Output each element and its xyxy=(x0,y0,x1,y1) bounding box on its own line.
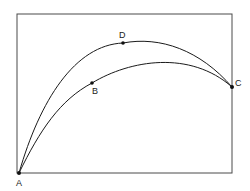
diagram-canvas: A B C D xyxy=(0,0,250,191)
label-c: C xyxy=(235,78,242,88)
label-d: D xyxy=(119,30,126,40)
point-b xyxy=(90,81,94,85)
label-a: A xyxy=(16,178,22,188)
lower-curve-abc xyxy=(19,62,232,173)
point-c xyxy=(230,85,234,89)
label-b: B xyxy=(92,86,98,96)
point-a xyxy=(17,171,21,175)
point-d xyxy=(121,41,125,45)
upper-curve-adc xyxy=(19,41,232,173)
